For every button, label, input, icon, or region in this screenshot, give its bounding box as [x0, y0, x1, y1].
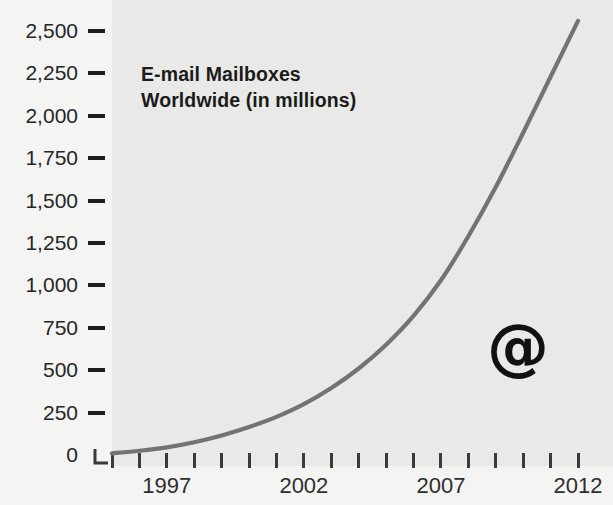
chart-title-line-1: E-mail Mailboxes: [141, 62, 356, 88]
email-mailboxes-chart: 02505007501,0001,2501,5001,7502,0002,250…: [0, 0, 613, 505]
chart-title: E-mail Mailboxes Worldwide (in millions): [141, 62, 356, 113]
chart-title-line-2: Worldwide (in millions): [141, 88, 356, 114]
at-sign-icon: @: [487, 316, 549, 378]
